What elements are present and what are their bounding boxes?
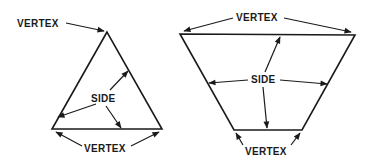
polygon-parts-diagram: VERTEX SIDE VERTEX VERTEX SIDE VERTEX — [0, 0, 373, 163]
trapezoid-side-arrow-right — [280, 80, 327, 84]
triangle-side-arrow-left — [58, 104, 96, 117]
triangle-shape — [52, 32, 162, 129]
trapezoid-bottom-left-vertex-arrow — [236, 133, 243, 145]
triangle-side-label: SIDE — [91, 93, 116, 104]
trapezoid-top-right-vertex-arrow — [284, 18, 351, 32]
trapezoid-side-label: SIDE — [251, 74, 276, 85]
trapezoid-top-left-vertex-arrow — [184, 18, 233, 31]
trapezoid-side-arrow-left — [209, 80, 248, 83]
trapezoid-side-arrow-top — [265, 37, 280, 72]
trapezoid-bottom-right-vertex-arrow — [291, 133, 300, 145]
triangle-top-vertex-label: VERTEX — [17, 18, 59, 29]
triangle-bottom-left-vertex-arrow — [56, 132, 82, 146]
triangle-side-arrow-right — [110, 71, 128, 90]
trapezoid-figure: VERTEX SIDE VERTEX — [180, 12, 355, 157]
triangle-figure: VERTEX SIDE VERTEX — [17, 18, 162, 154]
triangle-top-vertex-arrow — [66, 23, 104, 31]
triangle-side-arrow-base — [106, 106, 121, 128]
trapezoid-bottom-vertex-label: VERTEX — [245, 146, 287, 157]
trapezoid-top-vertex-label: VERTEX — [236, 12, 278, 23]
trapezoid-side-arrow-bottom — [263, 87, 267, 128]
triangle-bottom-right-vertex-arrow — [131, 132, 159, 146]
triangle-bottom-vertex-label: VERTEX — [84, 143, 126, 154]
